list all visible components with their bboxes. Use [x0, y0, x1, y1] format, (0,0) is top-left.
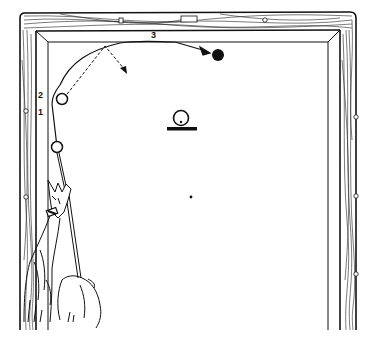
curved-path — [52, 41, 210, 147]
diamond-right-2 — [354, 194, 358, 198]
label-3: 3 — [151, 30, 156, 40]
diamond-top-right — [263, 18, 267, 22]
center-spot — [190, 196, 193, 199]
rail-diamonds — [24, 16, 358, 276]
dashed-arrowhead — [120, 66, 127, 74]
diamond-left-1 — [24, 109, 28, 113]
cue-ball-curve-position — [57, 94, 68, 105]
dashed-path — [64, 46, 127, 98]
curve-arrowhead — [200, 47, 210, 55]
diamond-right-3 — [354, 272, 358, 276]
diamond-right-1 — [354, 115, 358, 119]
object-ball — [212, 49, 224, 61]
center-ball-marker — [167, 111, 197, 131]
pool-table-diagram: 3 2 1 — [0, 0, 382, 343]
wood-grain-left — [22, 30, 33, 330]
diamond-top-left — [119, 18, 123, 23]
table-rail-frame — [20, 12, 356, 330]
cue-ball-start — [52, 142, 63, 153]
wood-grain-right — [342, 20, 355, 330]
diagram-canvas: 3 2 1 — [0, 0, 382, 343]
label-2: 2 — [38, 90, 43, 100]
rail-plate-top — [181, 16, 197, 22]
label-1: 1 — [38, 107, 43, 117]
diamond-left-2 — [24, 195, 28, 199]
